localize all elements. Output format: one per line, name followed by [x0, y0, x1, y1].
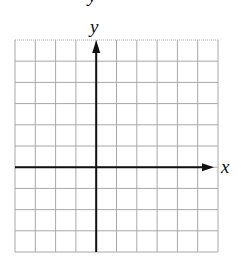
cropped-label-fragment: y	[88, 0, 96, 5]
coordinate-plane	[0, 0, 241, 264]
y-axis-label: y	[90, 17, 98, 36]
x-axis-arrow-icon	[202, 163, 214, 171]
x-axis-label: x	[221, 157, 229, 176]
y-axis-arrow-icon	[92, 40, 100, 53]
grid-lines	[15, 40, 218, 252]
